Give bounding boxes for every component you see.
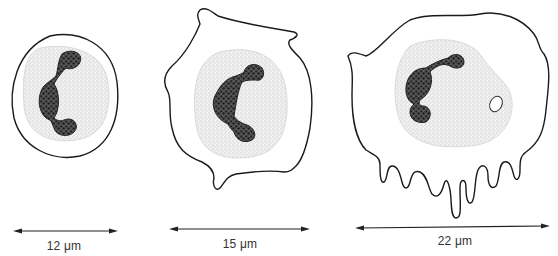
- scale-bar-12um: [13, 229, 118, 234]
- scale-label-12um: 12 μm: [47, 239, 82, 253]
- cell-2-cytoplasm: [194, 50, 287, 158]
- cell-3: [348, 13, 549, 218]
- cell-2: [165, 9, 312, 190]
- scale-bar-22um: [355, 224, 550, 231]
- scale-bar-15um: [169, 227, 310, 232]
- cell-1: [12, 35, 118, 158]
- scale-label-22um: 22 μm: [438, 234, 473, 248]
- cell-size-figure: [0, 0, 558, 256]
- scale-label-15um: 15 μm: [223, 237, 258, 251]
